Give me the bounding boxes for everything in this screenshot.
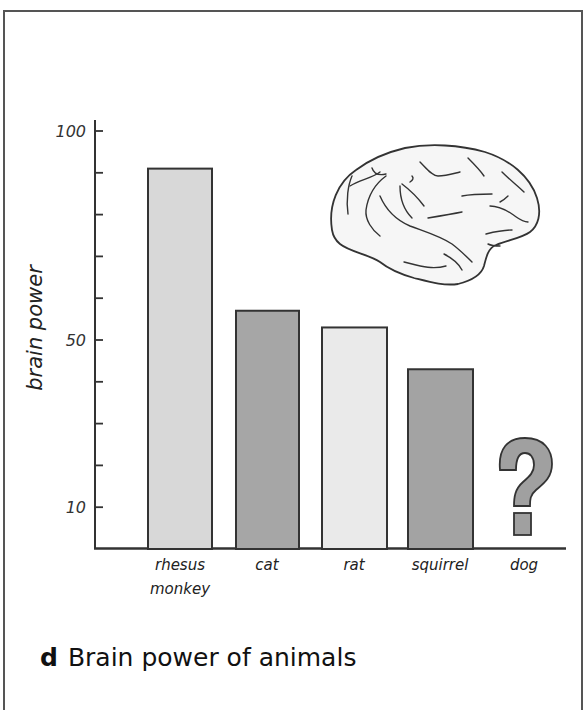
x-label-dog: dog (510, 553, 538, 577)
bar-cat (236, 311, 299, 549)
brain-illustration-icon (331, 145, 539, 284)
bar-squirrel (408, 369, 473, 549)
chart-title: Brain power of animals (68, 643, 357, 672)
y-tick-label-100: 100 (46, 122, 86, 141)
y-axis-label: brain power (23, 265, 47, 391)
panel-letter: d (40, 643, 58, 672)
question-mark-icon (500, 438, 552, 535)
y-axis-ticks (95, 131, 103, 507)
figure-caption: dBrain power of animals (40, 643, 356, 672)
y-tick-label-50: 50 (46, 331, 86, 350)
bar-rat (322, 327, 387, 549)
x-label-rhesus-monkey: rhesus monkey (150, 553, 210, 601)
x-label-squirrel: squirrel (412, 553, 469, 577)
bar-rhesus-monkey (148, 169, 212, 549)
x-label-rat: rat (343, 553, 364, 577)
y-tick-label-10: 10 (46, 498, 86, 517)
x-label-cat: cat (255, 553, 278, 577)
